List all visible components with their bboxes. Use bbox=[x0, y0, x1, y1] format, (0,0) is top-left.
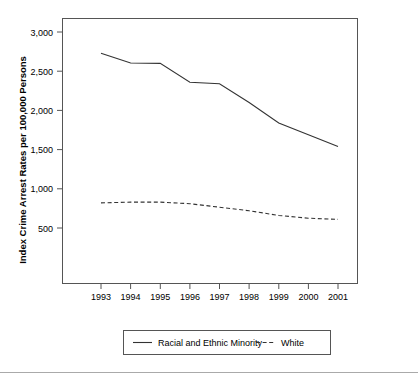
chart-legend: Racial and Ethnic Minority White bbox=[124, 331, 331, 355]
plot-area bbox=[63, 19, 358, 284]
x-tick-label-1994: 1994 bbox=[121, 292, 141, 302]
legend-label-white: White bbox=[281, 338, 304, 348]
x-tick-label-1999: 1999 bbox=[269, 292, 289, 302]
line-chart: Index Crime Arrest Rates per 100,000 Per… bbox=[0, 0, 418, 380]
legend-label-racial-and-ethnic-minority: Racial and Ethnic Minority bbox=[158, 338, 263, 348]
x-tick-label-1995: 1995 bbox=[150, 292, 170, 302]
chart-figure: Index Crime Arrest Rates per 100,000 Per… bbox=[0, 0, 418, 380]
y-tick-label-500: 500 bbox=[38, 224, 53, 234]
x-tick-label-1997: 1997 bbox=[209, 292, 229, 302]
y-tick-label-1500: 1,500 bbox=[30, 145, 53, 155]
x-tick-label-1996: 1996 bbox=[180, 292, 200, 302]
x-tick-label-2001: 2001 bbox=[328, 292, 348, 302]
y-axis-title: Index Crime Arrest Rates per 100,000 Per… bbox=[17, 56, 28, 264]
y-tick-label-2000: 2,000 bbox=[30, 106, 53, 116]
y-tick-label-3000: 3,000 bbox=[30, 28, 53, 38]
x-axis-ticks: 1993 1994 1995 1996 1997 1998 1999 2000 … bbox=[91, 284, 348, 303]
y-axis-ticks: 3,000 2,500 2,000 1,500 1,000 500 bbox=[30, 28, 63, 234]
x-tick-label-1998: 1998 bbox=[239, 292, 259, 302]
y-tick-label-2500: 2,500 bbox=[30, 67, 53, 77]
x-tick-label-2000: 2000 bbox=[298, 292, 318, 302]
x-tick-label-1993: 1993 bbox=[91, 292, 111, 302]
y-tick-label-1000: 1,000 bbox=[30, 184, 53, 194]
